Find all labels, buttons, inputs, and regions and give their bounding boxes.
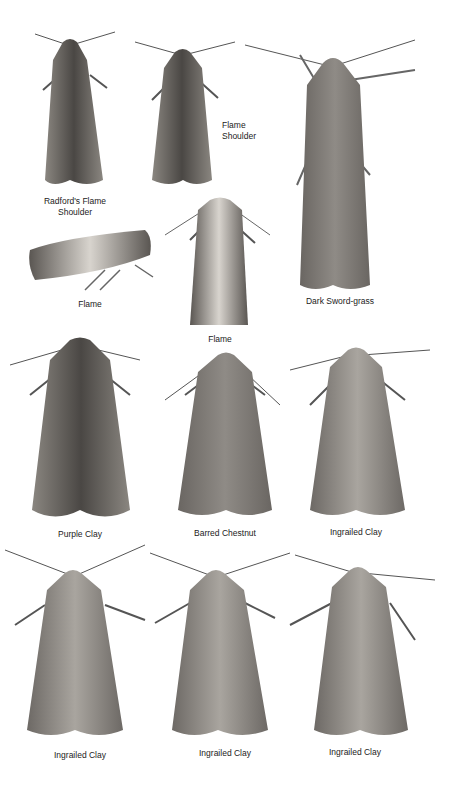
moth-radfords-flame-shoulder-image	[15, 30, 135, 190]
label-ingrailed-clay-2: Ingrailed Clay	[30, 750, 130, 761]
moth-barred-chestnut-image	[160, 350, 290, 520]
moth-ingrailed-clay-2-image	[5, 545, 150, 740]
moth-purple-clay-image	[10, 335, 150, 525]
label-flame-dorsal: Flame	[190, 334, 250, 345]
label-barred-chestnut: Barred Chestnut	[175, 528, 275, 539]
moth-ingrailed-clay-1-image	[290, 345, 440, 520]
label-radfords-flame-shoulder: Radford's Flame Shoulder	[25, 196, 125, 218]
label-ingrailed-clay-3: Ingrailed Clay	[175, 748, 275, 759]
label-purple-clay: Purple Clay	[30, 529, 130, 540]
label-ingrailed-clay-4: Ingrailed Clay	[305, 747, 405, 758]
moth-flame-dorsal-image	[160, 195, 280, 330]
moth-flame-shoulder-image	[130, 40, 240, 190]
label-ingrailed-clay-1: Ingrailed Clay	[306, 527, 406, 538]
moth-flame-side-image	[25, 225, 155, 295]
moth-ingrailed-clay-3-image	[150, 548, 290, 738]
moth-ingrailed-clay-4-image	[290, 545, 440, 740]
label-flame-side: Flame	[60, 299, 120, 310]
label-dark-sword-grass: Dark Sword-grass	[290, 296, 390, 307]
